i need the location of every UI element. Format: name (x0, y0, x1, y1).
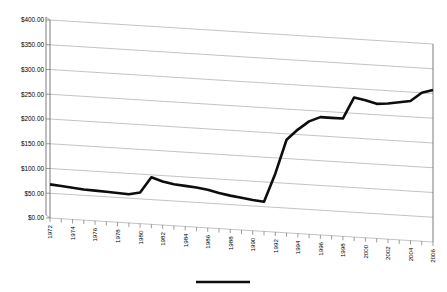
x-axis-tick-label: 2002 (384, 246, 391, 260)
gridline-group (50, 20, 433, 242)
gridline (50, 45, 433, 69)
x-axis-tick-label: 1986 (204, 234, 211, 248)
x-axis-tick-label: 1976 (91, 227, 98, 241)
data-series-group (50, 90, 433, 202)
gridline (50, 94, 433, 118)
x-axis-tick-label: 1992 (272, 239, 279, 253)
x-axis-tick-label: 1990 (249, 237, 256, 251)
y-axis-tick-label: $100.00 (21, 165, 45, 172)
x-axis-tick-label: 1982 (159, 232, 166, 246)
y-axis-tick-label: $150.00 (21, 140, 45, 147)
y-axis-tick-label: $350.00 (21, 41, 45, 48)
gridline (50, 70, 433, 94)
x-axis-tick-label: 2004 (407, 247, 414, 261)
chart-wall-edge (46, 215, 50, 218)
x-axis-tick-label: 1996 (317, 241, 324, 255)
y-axis-tick-label: $300.00 (21, 66, 45, 73)
y-axis-tick-label: $50.00 (24, 190, 44, 197)
x-axis-tick-label: 1980 (137, 230, 144, 244)
y-axis-tick-label: $0.00 (28, 214, 44, 221)
x-axis-tick-label: 1978 (114, 229, 121, 243)
legend[interactable] (190, 274, 256, 289)
y-axis-tick-label: $200.00 (21, 115, 45, 122)
data-series-line (50, 90, 433, 202)
x-axis-tick-label: 1994 (294, 240, 301, 254)
y-axis-label-group: $0.00$50.00$100.00$150.00$200.00$250.00$… (21, 16, 45, 221)
x-axis-tick-label: 1998 (339, 243, 346, 257)
chart-wall-group (46, 17, 433, 242)
x-axis-tick-label: 1972 (46, 224, 53, 238)
x-axis-tick-label: 1974 (69, 226, 76, 240)
y-axis-tick-label: $250.00 (21, 91, 45, 98)
y-axis-tick-label: $400.00 (21, 16, 45, 23)
chart-container: $0.00$50.00$100.00$150.00$200.00$250.00$… (0, 0, 447, 292)
x-axis-tick-label: 2006 (429, 248, 436, 262)
perspective-line-chart: $0.00$50.00$100.00$150.00$200.00$250.00$… (0, 0, 447, 292)
chart-wall-edge (46, 17, 50, 20)
x-axis-tick-label: 2000 (362, 244, 369, 258)
x-axis-tick-label: 1988 (227, 236, 234, 250)
gridline (50, 144, 433, 168)
gridline (50, 119, 433, 143)
x-axis-tick-label: 1984 (182, 233, 189, 247)
x-axis-tick-group (50, 218, 433, 246)
gridline (50, 20, 433, 44)
gridline (50, 169, 433, 193)
y-axis-tick-group (46, 20, 50, 218)
